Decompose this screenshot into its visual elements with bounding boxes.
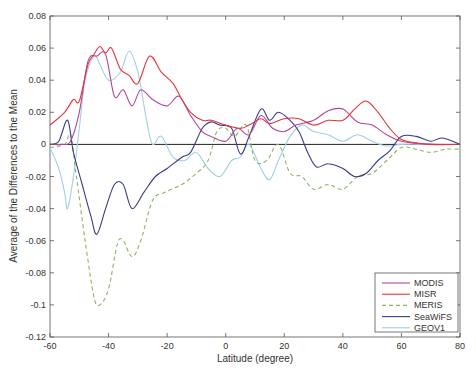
y-tick-label: 0.06 <box>28 43 46 53</box>
y-tick-label: -0.06 <box>25 236 46 246</box>
y-tick-label: -0.08 <box>25 268 46 278</box>
y-tick-label: 0 <box>41 139 46 149</box>
x-axis-title: Latitude (degree) <box>217 353 293 364</box>
x-tick-label: -40 <box>102 341 115 351</box>
legend-label-misr: MISR <box>414 289 437 299</box>
y-tick-label: -0.04 <box>25 204 46 214</box>
legend-label-meris: MERIS <box>414 300 443 310</box>
x-tick-label: 80 <box>455 341 465 351</box>
y-tick-label: -0.12 <box>25 332 46 342</box>
y-tick-label: 0.08 <box>28 11 46 21</box>
legend-label-seawifs: SeaWiFS <box>414 312 452 322</box>
x-tick-label: 0 <box>223 341 228 351</box>
x-tick-label: 20 <box>279 341 289 351</box>
x-tick-label: -20 <box>161 341 174 351</box>
y-tick-label: -0.1 <box>30 300 46 310</box>
y-tick-label: -0.02 <box>25 172 46 182</box>
y-tick-label: 0.02 <box>28 107 46 117</box>
x-tick-label: 60 <box>396 341 406 351</box>
y-tick-label: 0.04 <box>28 75 46 85</box>
legend-label-geov1: GEOV1 <box>414 323 445 333</box>
x-tick-label: 40 <box>338 341 348 351</box>
legend: MODISMISRMERISSeaWiFSGEOV1 <box>375 273 458 333</box>
y-axis-title: Average of the Differences to the Mean <box>8 89 19 263</box>
x-tick-label: -60 <box>43 341 56 351</box>
legend-label-modis: MODIS <box>414 278 444 288</box>
line-chart: -60-40-20020406080 -0.12-0.1-0.08-0.06-0… <box>0 0 476 375</box>
